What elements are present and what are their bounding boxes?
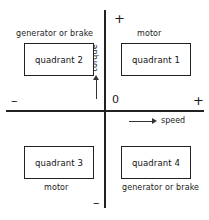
quadrant-1-box: quadrant 1 <box>121 43 191 76</box>
quadrant-3-caption: motor <box>44 183 69 192</box>
quadrant-4-box: quadrant 4 <box>121 146 191 179</box>
four-quadrant-diagram: + + – – 0 torque speed generator or brak… <box>0 0 209 220</box>
axis-sign-speed-positive: + <box>193 94 204 107</box>
origin-label: 0 <box>112 94 119 105</box>
quadrant-4-caption: generator or brake <box>122 183 199 192</box>
axis-sign-torque-negative: – <box>93 196 100 209</box>
vertical-axis-torque <box>104 10 106 208</box>
axis-sign-torque-positive: + <box>114 12 125 25</box>
quadrant-1-caption: motor <box>137 29 162 38</box>
quadrant-2-box: quadrant 2 <box>24 43 94 76</box>
speed-axis-label: speed <box>161 116 185 125</box>
quadrant-3-box: quadrant 3 <box>24 146 94 179</box>
quadrant-2-caption: generator or brake <box>16 29 93 38</box>
axis-sign-speed-negative: – <box>11 94 18 107</box>
